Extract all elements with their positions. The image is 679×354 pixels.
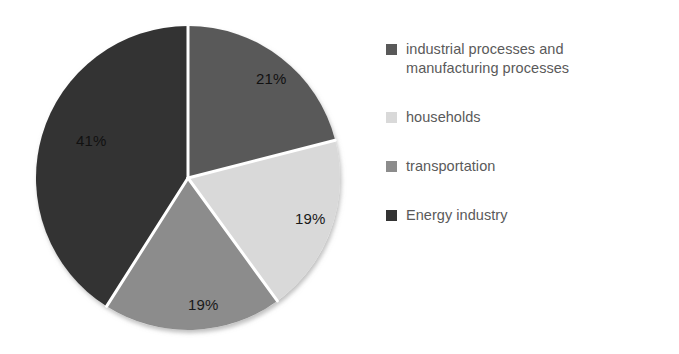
legend-swatch-households: [386, 112, 397, 123]
legend-swatch-transportation: [386, 161, 397, 172]
pie-slice-percentage-label: 41%: [76, 132, 107, 149]
legend-item-label: Energy industry: [406, 206, 508, 225]
pie-chart-figure: 21%19%19%41% industrial processes and ma…: [0, 0, 679, 354]
pie-slice-percentage-label: 19%: [295, 210, 326, 227]
legend-item[interactable]: households: [386, 108, 666, 127]
pie-slice-percentage-label: 19%: [188, 296, 219, 313]
legend-swatch-industrial: [386, 44, 397, 55]
legend-item[interactable]: Energy industry: [386, 206, 666, 225]
legend-item-label: households: [406, 108, 481, 127]
pie-slice-percentage-label: 21%: [256, 70, 287, 87]
legend-item-label: industrial processes and manufacturing p…: [406, 40, 636, 78]
chart-legend: industrial processes and manufacturing p…: [386, 40, 666, 225]
legend-item[interactable]: transportation: [386, 157, 666, 176]
legend-swatch-energy: [386, 210, 397, 221]
legend-item-label: transportation: [406, 157, 495, 176]
legend-item[interactable]: industrial processes and manufacturing p…: [386, 40, 666, 78]
pie-chart-graphic: 21%19%19%41%: [28, 12, 358, 348]
pie-svg: 21%19%19%41%: [28, 12, 358, 348]
